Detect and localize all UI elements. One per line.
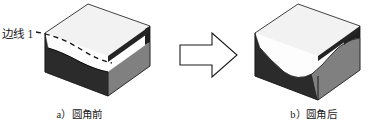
panel-after-fillet: b）圆角后 — [240, 0, 379, 130]
edge-label-callout: 边线 1 — [2, 27, 33, 41]
panel-before-fillet: 边线 1 a）圆角前 — [0, 0, 175, 130]
panel-arrow — [175, 0, 240, 130]
arrow-right-shape — [180, 33, 237, 77]
figure-root: 边线 1 a）圆角前 b）圆角 — [0, 0, 379, 130]
arrow-right-icon — [175, 0, 240, 130]
caption-after-fillet: b）圆角后 — [244, 108, 379, 122]
caption-before-fillet: a）圆角前 — [0, 108, 167, 122]
